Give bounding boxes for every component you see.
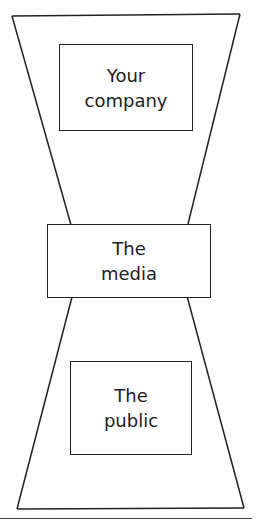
the-media-label: The media [101, 236, 157, 286]
the-public-label: The public [104, 383, 158, 433]
horizontal-rule [0, 518, 252, 519]
lower-left-side [17, 297, 72, 509]
hourglass-diagram: Your company The media The public [0, 0, 257, 526]
the-media-box: The media [47, 224, 211, 298]
upper-right-side [188, 14, 240, 224]
funnel-top-edge [12, 14, 240, 16]
your-company-box: Your company [59, 44, 193, 131]
your-company-label: Your company [85, 63, 168, 113]
funnel-bottom-edge [17, 508, 244, 509]
lower-right-side [187, 296, 244, 508]
the-public-box: The public [70, 361, 192, 455]
